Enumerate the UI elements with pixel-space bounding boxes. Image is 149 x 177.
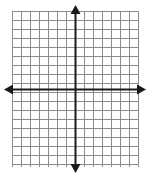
coordinate-plane-figure: Blank coordinate plane grid with x and y… <box>0 0 149 177</box>
coordinate-plane-svg: Blank coordinate plane grid with x and y… <box>0 0 149 177</box>
